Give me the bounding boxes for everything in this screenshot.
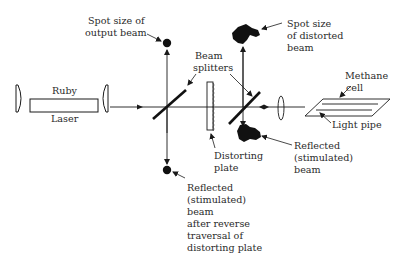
label-methane-line1: Methane	[345, 70, 388, 82]
pointer-distorting-plate	[211, 134, 215, 148]
methane-cell	[305, 99, 390, 116]
reflected-spot-blob	[237, 124, 261, 142]
pointer-reflected-stimulated	[262, 136, 292, 145]
label-output-spot-line1: Spot size of	[88, 15, 145, 27]
label-distorted-spot-line2: of distorted	[287, 30, 343, 42]
label-distorting-plate-line1: Distorting	[214, 150, 263, 162]
pointer-splitter-2	[230, 74, 252, 96]
label-distorted-spot-line3: beam	[287, 42, 314, 54]
beam-splitter-1	[153, 90, 186, 119]
label-reflected-after-line5: traversal of	[187, 230, 243, 242]
label-distorting-plate-line2: plate	[214, 162, 238, 174]
pointer-distorted-spot	[262, 23, 282, 29]
beam-splitter-2	[229, 92, 260, 124]
label-reflected-after-line2: (stimulated)	[187, 194, 246, 206]
beam-direction-arrow-icon	[137, 105, 143, 110]
phase-conjugation-diagram: Ruby Laser Spot size of output beam Spot…	[0, 0, 403, 268]
double-arrow-icon	[259, 105, 269, 110]
label-reflected-line3: beam	[294, 164, 321, 176]
distorted-spot-blob	[232, 24, 260, 44]
pointer-light-pipe	[320, 113, 331, 123]
label-methane-line2: cell	[346, 82, 363, 94]
label-light-pipe: Light pipe	[332, 119, 382, 131]
distorting-plate	[207, 82, 214, 131]
pointer-splitter-1	[188, 74, 196, 85]
label-reflected-after-line4: after reverse	[187, 218, 250, 230]
right-mirror-icon	[103, 85, 108, 112]
label-ruby: Ruby	[52, 85, 77, 97]
label-reflected-after-line3: beam	[187, 206, 214, 218]
label-laser: Laser	[51, 113, 78, 125]
label-reflected-line2: (stimulated)	[294, 152, 353, 164]
label-beam-splitters-line2: splitters	[193, 62, 233, 74]
left-mirror-icon	[16, 85, 21, 112]
pointer-output-spot	[147, 34, 161, 41]
reflected-beam-spot	[163, 166, 171, 174]
label-beam-splitters-line1: Beam	[195, 50, 223, 62]
label-reflected-line1: Reflected	[294, 140, 340, 152]
pointer-reflected-after	[173, 172, 185, 178]
label-output-spot-line2: output beam	[85, 27, 147, 39]
output-beam-spot	[163, 39, 171, 47]
ruby-rod	[30, 99, 98, 112]
lens	[278, 96, 284, 120]
label-distorted-spot-line1: Spot size	[287, 18, 331, 30]
label-reflected-after-line6: distorting plate	[187, 242, 262, 254]
label-reflected-after-line1: Reflected	[187, 182, 233, 194]
